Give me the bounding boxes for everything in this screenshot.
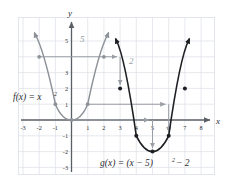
f-equation-exponent: 2 [54,91,57,97]
x-tick-label: -2 [37,124,42,131]
point-f--2-4 [37,55,41,59]
g-equation-text-b: − 2 [176,158,190,168]
point-f-2-4 [102,55,106,59]
point-f-0-0 [70,118,74,122]
point-g-3-2 [118,86,122,90]
x-tick-label: 1 [86,124,89,131]
y-tick-label: -1 [63,132,68,139]
g-equation-label: g(x) = (x − 5) 2 − 2 [100,157,190,169]
x-tick-label: 3 [119,124,122,131]
x-tick-label: -3 [20,124,25,131]
x-tick-label: 7 [183,124,186,131]
point-f--1-1 [54,102,58,106]
g-equation-text-a: g(x) = (x − 5) [100,158,153,169]
x-axis-label: x [215,116,220,126]
y-tick-label: -3 [63,164,68,171]
x-tick-label: -1 [53,124,58,131]
point-f-1-1 [86,102,90,106]
graph-figure: x y 5 -3 -2 -1 1 2 3 4 5 6 7 8 5 3 2 1 -… [0,0,231,192]
y-axis-label: y [67,8,72,18]
point-g-4--1 [134,134,138,138]
y-tick-label: 5 [65,37,68,44]
point-g-5--2 [151,150,155,154]
g-equation-exponent: 2 [172,157,175,163]
x-tick-label: 8 [200,124,203,131]
point-g-7-2 [183,86,187,90]
f-equation-text: f(x) = x [13,92,42,103]
y-tick-label: 1 [65,101,68,108]
y-tick-label: 2 [65,85,68,92]
y-tick-label: 3 [65,69,68,76]
y-tick-label: -2 [63,148,68,155]
x-tick-label: 2 [102,124,105,131]
point-g-6--1 [167,134,171,138]
vertical-shift-label: 2 [129,56,134,66]
coordinate-plane-svg: x y 5 -3 -2 -1 1 2 3 4 5 6 7 8 5 3 2 1 -… [0,0,231,192]
horizontal-shift-label: 5 [80,34,85,44]
